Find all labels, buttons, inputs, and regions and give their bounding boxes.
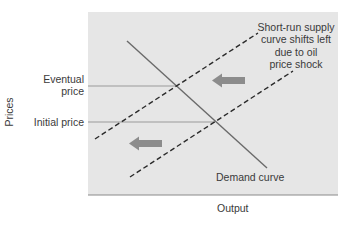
eventual-price-label: Eventual price xyxy=(40,73,84,97)
x-axis-label: Output xyxy=(217,202,249,214)
demand-curve-label: Demand curve xyxy=(216,171,284,183)
initial-price-label: Initial price xyxy=(22,116,84,128)
y-axis-label: Prices xyxy=(3,97,15,126)
supply-shift-annotation: Short-run supply curve shifts left due t… xyxy=(246,21,346,70)
